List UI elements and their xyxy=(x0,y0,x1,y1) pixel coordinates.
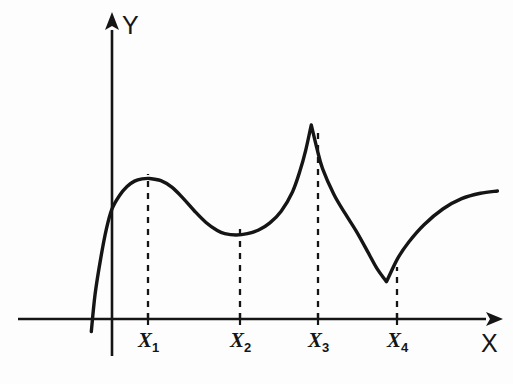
tick-label-x4-base: X xyxy=(386,328,402,352)
tick-label-x3: X3 xyxy=(307,328,329,355)
x-axis-arrowhead-icon xyxy=(486,312,503,326)
function-graph-figure: Y X X1 X2 X3 X4 xyxy=(0,0,513,384)
function-curve xyxy=(91,125,497,332)
tick-label-x1-sub: 1 xyxy=(152,340,159,355)
tick-label-x1: X1 xyxy=(137,328,159,355)
x-tick-labels-group: X1 X2 X3 X4 xyxy=(137,328,409,355)
y-axis-arrowhead-icon xyxy=(105,12,119,30)
drop-lines-group xyxy=(148,132,397,319)
x-axis-label: X xyxy=(481,329,498,357)
axes-group xyxy=(18,12,503,356)
tick-label-x3-sub: 3 xyxy=(322,340,329,355)
graph-canvas: Y X X1 X2 X3 X4 xyxy=(0,0,513,384)
y-axis-label: Y xyxy=(122,11,139,39)
tick-label-x4: X4 xyxy=(386,328,409,355)
tick-label-x2: X2 xyxy=(229,328,251,355)
tick-label-x2-base: X xyxy=(229,328,245,352)
tick-label-x3-base: X xyxy=(307,328,323,352)
tick-label-x2-sub: 2 xyxy=(244,340,251,355)
tick-label-x1-base: X xyxy=(137,328,153,352)
tick-label-x4-sub: 4 xyxy=(401,340,409,355)
